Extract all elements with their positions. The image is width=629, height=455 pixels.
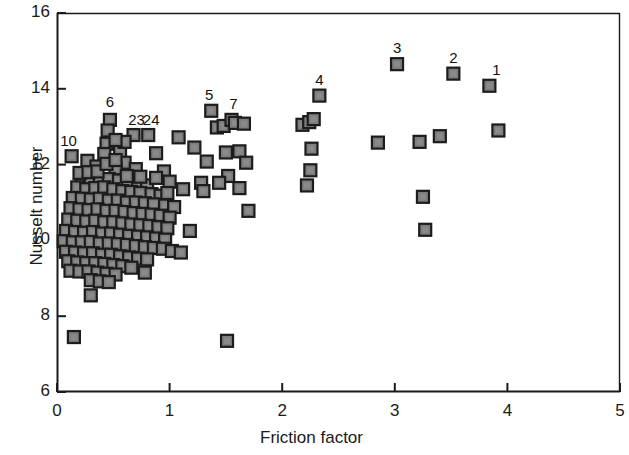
data-point-marker	[161, 187, 173, 199]
data-point-marker	[220, 146, 232, 158]
data-point-marker	[414, 136, 426, 148]
data-point-marker	[238, 118, 250, 130]
data-point-annotation: 24	[140, 111, 162, 128]
data-point-marker	[184, 225, 196, 237]
data-point-marker	[221, 335, 233, 347]
data-point-marker	[125, 262, 137, 274]
data-point-marker	[68, 331, 80, 343]
x-tick-label: 4	[492, 401, 522, 421]
data-point-marker	[164, 176, 176, 188]
data-point-marker	[305, 143, 317, 155]
y-tick-label: 6	[16, 381, 50, 401]
data-point-marker	[197, 185, 209, 197]
data-point-marker	[313, 90, 325, 102]
y-tick-label: 16	[16, 2, 50, 22]
data-point-marker	[139, 267, 151, 279]
data-point-marker	[110, 154, 122, 166]
data-point-marker	[175, 247, 187, 259]
data-point-marker	[85, 289, 97, 301]
x-tick-label: 2	[267, 401, 297, 421]
data-point-marker	[242, 205, 254, 217]
data-point-annotation: 3	[386, 39, 408, 56]
data-point-annotation: 10	[58, 132, 80, 149]
data-point-marker	[66, 150, 78, 162]
data-point-marker	[150, 147, 162, 159]
data-point-marker	[233, 145, 245, 157]
data-point-marker	[304, 164, 316, 176]
data-point-annotation: 4	[308, 71, 330, 88]
data-point-annotation: 5	[198, 86, 220, 103]
data-point-annotation: 6	[99, 93, 121, 110]
data-point-marker	[141, 253, 153, 265]
data-point-marker	[419, 224, 431, 236]
data-point-marker	[205, 105, 217, 117]
data-point-marker	[372, 137, 384, 149]
data-point-marker	[417, 191, 429, 203]
x-tick-label: 3	[380, 401, 410, 421]
x-axis-title: Friction factor	[0, 428, 623, 448]
data-point-marker	[201, 156, 213, 168]
data-point-marker	[177, 183, 189, 195]
data-point-marker	[213, 177, 225, 189]
data-point-marker	[142, 129, 154, 141]
x-tick-label: 1	[155, 401, 185, 421]
data-point-marker	[391, 58, 403, 70]
data-point-marker	[492, 124, 504, 136]
data-point-marker	[150, 172, 162, 184]
data-point-marker	[134, 171, 146, 183]
data-points	[58, 58, 505, 347]
data-point-marker	[240, 157, 252, 169]
data-point-marker	[233, 182, 245, 194]
data-point-marker	[301, 179, 313, 191]
data-point-marker	[188, 142, 200, 154]
data-point-marker	[308, 113, 320, 125]
data-point-marker	[173, 131, 185, 143]
data-point-marker	[121, 170, 133, 182]
data-point-marker	[434, 130, 446, 142]
data-point-marker	[483, 80, 495, 92]
data-point-marker	[447, 68, 459, 80]
data-point-marker	[103, 276, 115, 288]
x-tick-label: 5	[605, 401, 629, 421]
x-tick-label: 0	[42, 401, 72, 421]
data-point-annotation: 7	[223, 95, 245, 112]
y-axis-title: Nusselt number	[27, 81, 47, 331]
data-point-annotation: 2	[442, 49, 464, 66]
data-point-annotation: 1	[485, 61, 507, 78]
data-point-marker	[110, 134, 122, 146]
